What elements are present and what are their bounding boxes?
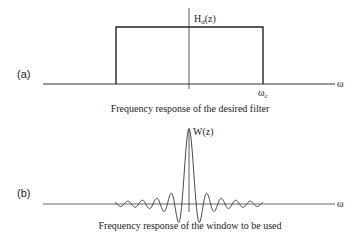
panel-a-caption: Frequency response of the desired filter	[111, 103, 270, 114]
panel-b: (b) W(z) ω Frequency response of the win…	[17, 126, 344, 231]
panel-b-y-label: W(z)	[193, 126, 214, 138]
panel-a-tag: (a)	[17, 68, 30, 80]
diagram-canvas: (a) Hd(z) ωc ω Frequency response of the…	[0, 0, 360, 236]
ideal-lowpass-response	[116, 27, 263, 84]
panel-b-tag: (b)	[17, 187, 30, 199]
panel-b-caption: Frequency response of the window to be u…	[98, 220, 281, 231]
panel-b-x-label: ω	[337, 198, 344, 209]
panel-a-x-label: ω	[337, 78, 344, 89]
cutoff-frequency-label: ωc	[258, 87, 268, 100]
panel-a: (a) Hd(z) ωc ω Frequency response of the…	[17, 8, 344, 114]
panel-a-y-label: Hd(z)	[194, 13, 216, 26]
